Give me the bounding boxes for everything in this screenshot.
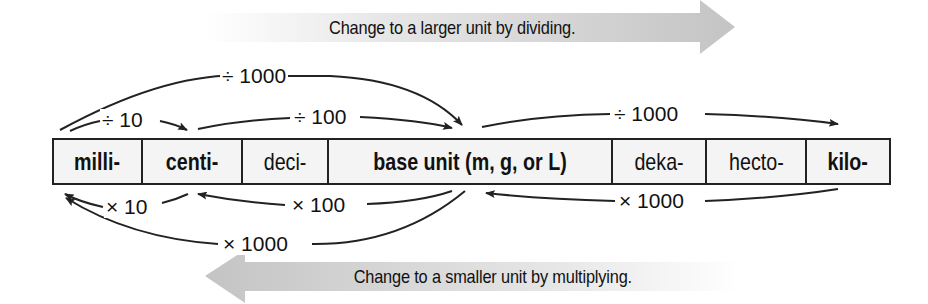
divide-10-label: ÷ 10 bbox=[100, 109, 145, 131]
metric-prefix-table: milli- centi- deci- base unit (m, g, or … bbox=[52, 138, 891, 185]
bottom-banner-text: Change to a smaller unit by multiplying. bbox=[353, 266, 631, 288]
unit-cell-deci: deci- bbox=[243, 140, 329, 183]
divide-1000-base-kilo-label: ÷ 1000 bbox=[612, 103, 680, 125]
multiply-1000-base-milli-label: × 1000 bbox=[221, 233, 290, 255]
unit-cell-milli: milli- bbox=[54, 140, 143, 183]
multiply-100-label: × 100 bbox=[290, 194, 347, 216]
unit-cell-kilo: kilo- bbox=[807, 140, 889, 183]
multiply-1000-kilo-base-label: × 1000 bbox=[617, 190, 686, 212]
divide-100-label: ÷ 100 bbox=[292, 106, 348, 128]
unit-cell-hecto: hecto- bbox=[707, 140, 807, 183]
top-banner-text: Change to a larger unit by dividing. bbox=[329, 17, 575, 39]
divide-1000-milli-base-label: ÷ 1000 bbox=[220, 65, 288, 87]
unit-cell-deka: deka- bbox=[613, 140, 707, 183]
top-banner-label: Change to a larger unit by dividing. bbox=[205, 13, 700, 42]
bottom-banner-label: Change to a smaller unit by multiplying. bbox=[245, 262, 740, 291]
multiply-10-label: × 10 bbox=[104, 196, 149, 218]
unit-cell-base: base unit (m, g, or L) bbox=[329, 140, 613, 183]
unit-cell-centi: centi- bbox=[143, 140, 243, 183]
